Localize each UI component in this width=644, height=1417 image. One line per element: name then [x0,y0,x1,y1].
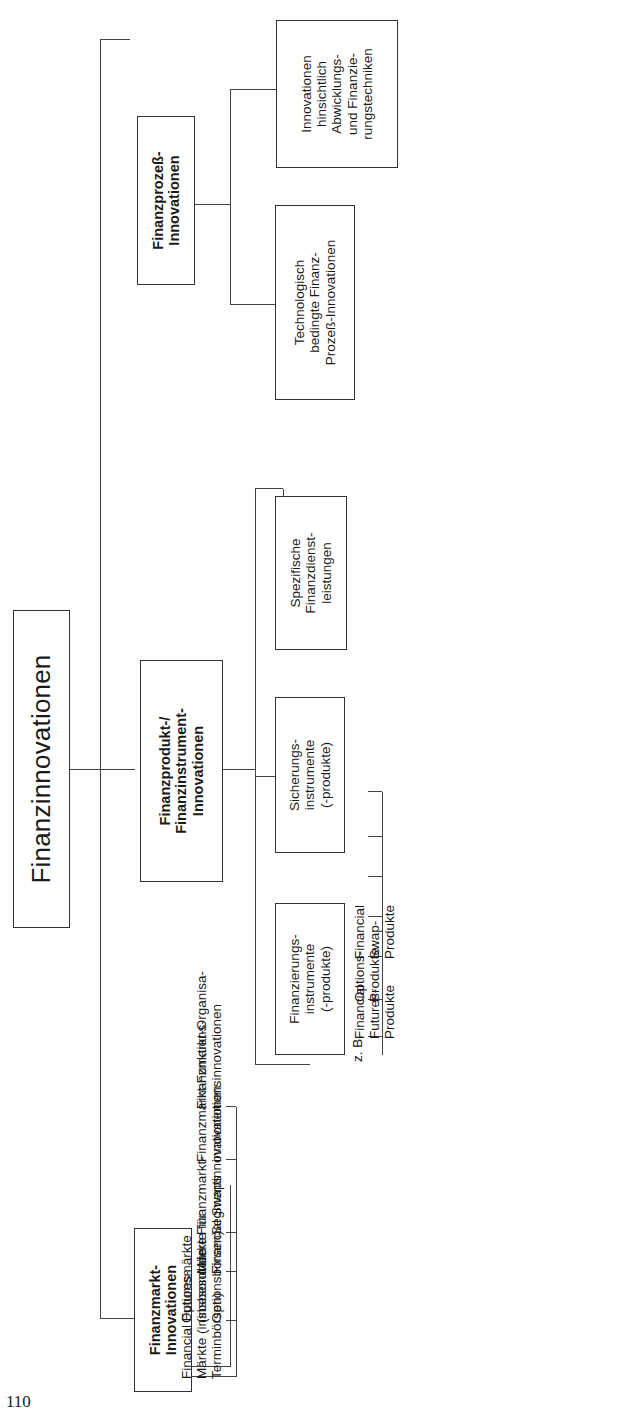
finanzprozess-label: Finanzprozeß- Innovationen [150,151,182,249]
finanzprodukt-box: Finanzprodukt-/ Finanzinstrument- Innova… [140,660,223,882]
org-chart-finanzinnovationen: Finanzinnovationen Finanzmarkt- Innovati… [0,0,644,1417]
finanzmarkt-tick [226,1106,236,1107]
root-connector [70,769,100,770]
finanzmarkt-tick [226,1376,236,1377]
spezifische-box: Spezifische Finanzdienst- leistungen [275,496,347,650]
root-label: Finanzinnovationen [27,654,56,883]
finanzierungs-tick [368,791,382,792]
finanzmarkt-leaf-axis [230,1185,231,1367]
finanzprodukt-out-v [223,769,255,770]
root-box: Finanzinnovationen [13,610,70,928]
finanzierungs-item: Financial Swap- Produkte [352,905,397,959]
finanzmarkt-tick [226,1271,236,1272]
abwicklung-box: Innovationen hinsichtlich Abwicklungs- u… [276,20,398,168]
finanzmarkt-rail [236,1107,237,1377]
finanzprodukt-l2-spine [255,489,256,1065]
drop-finanzmarkt [100,1318,135,1319]
finanzierungs-box: Finanzierungs- instrumente (-produkte) [275,903,345,1055]
book-page: Finanzinnovationen Finanzmarkt- Innovati… [0,0,644,1417]
finanzierungs-tick [368,916,382,917]
finanzierungs-label: Finanzierungs- instrumente (-produkte) [287,934,332,1023]
drop-technologisch [230,304,275,305]
finanzprozess-l2-spine [230,90,231,305]
finanzmarkt-label: Finanzmarkt- Innovationen [147,1265,179,1355]
finanzierungs-tick [368,876,382,877]
level1-spine [100,40,101,1319]
finanzprodukt-label: Finanzprodukt-/ Finanzinstrument- Innova… [157,708,206,834]
abwicklung-label: Innovationen hinsichtlich Abwicklungs- u… [299,48,375,140]
finanzprozess-box: Finanzprozeß- Innovationen [137,116,195,285]
drop-spezifische [255,488,283,489]
technologisch-box: Technologisch bedingte Finanz- Prozeß-In… [275,205,355,400]
finanzmarkt-tick [226,1320,236,1321]
sicherungs-box: Sicherungs- instrumente (-produkte) [275,697,345,853]
page-number: 110 [6,1392,31,1412]
drop-abwicklung [230,89,276,90]
drop-finanzierungs [255,1064,310,1065]
finanzprozess-out [195,204,230,205]
drop-finanzprozess [100,39,130,40]
drop-finanzprodukt [100,769,135,770]
finanzmarkt-tick [226,1232,236,1233]
technologisch-label: Technologisch bedingte Finanz- Prozeß-In… [292,240,337,365]
spezifische-label: Spezifische Finanzdienst- leistungen [288,532,333,613]
finanzmarkt-item: Finanzmarkt-Organisa- tionsinnovationen [194,971,224,1109]
link-spezifische [283,489,284,496]
finanzmarkt-tick [226,1159,236,1160]
sicherungs-label: Sicherungs- instrumente (-produkte) [287,739,332,811]
finanzierungs-tick [368,836,382,837]
finanzierungs-prefix: z. B. [350,1035,365,1062]
drop-sicherungs [255,776,275,777]
